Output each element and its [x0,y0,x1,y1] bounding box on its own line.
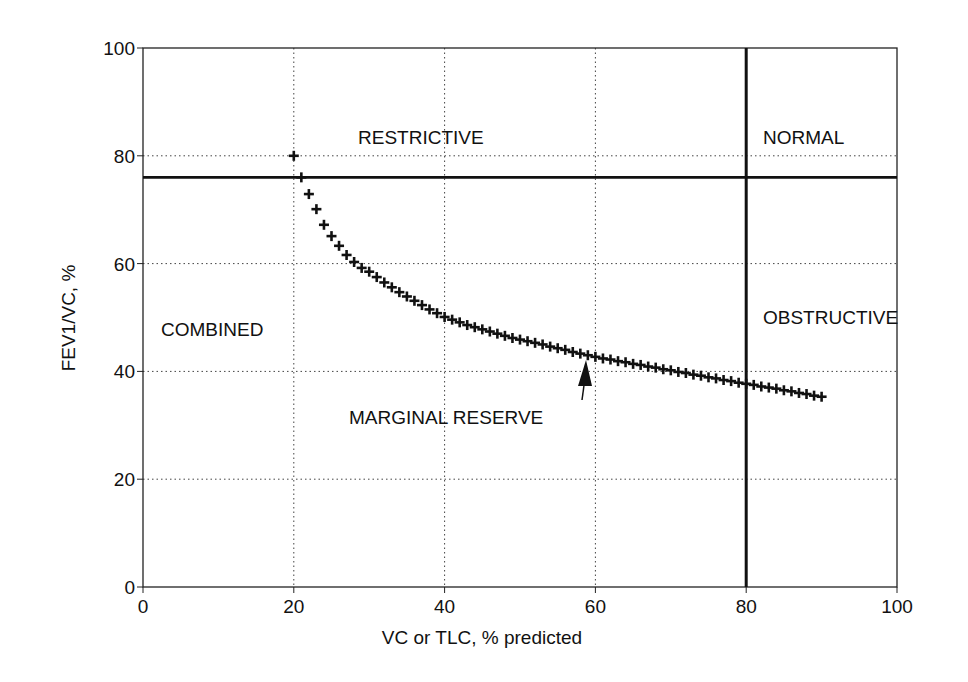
chart-canvas: 020406080100020406080100 RESTRICTIVE NOR… [0,0,968,682]
x-tick-label: 80 [736,596,757,617]
x-tick-label: 100 [881,596,913,617]
plus-marker-icon [583,350,593,360]
plus-marker-icon [545,342,555,352]
label-combined: COMBINED [161,319,263,340]
plus-marker-icon [802,389,812,399]
plus-marker-icon [327,231,337,241]
plus-marker-icon [590,352,600,362]
plus-marker-icon [296,172,306,182]
plus-marker-icon [605,355,615,365]
plus-marker-icon [379,277,389,287]
plus-marker-icon [538,339,548,349]
label-obstructive: OBSTRUCTIVE [763,307,898,328]
plus-marker-icon [636,360,646,370]
plus-marker-icon [372,272,382,282]
y-tick-label: 100 [103,38,135,59]
plus-marker-icon [560,345,570,355]
plus-marker-icon [523,336,533,346]
plus-marker-icon [492,329,502,339]
plus-marker-icon [319,220,329,230]
plus-marker-icon [749,380,759,390]
plus-marker-icon [771,384,781,394]
plus-marker-icon [786,386,796,396]
plus-marker-icon [289,151,299,161]
plus-marker-icon [530,338,540,348]
plus-marker-icon [334,241,344,251]
x-tick-label: 60 [585,596,606,617]
plus-marker-icon [342,250,352,260]
plus-marker-icon [666,365,676,375]
x-tick-label: 20 [283,596,304,617]
label-restrictive: RESTRICTIVE [358,127,484,148]
plus-marker-icon [726,376,736,386]
plus-marker-icon [477,324,487,334]
y-tick-label: 20 [114,469,135,490]
plus-marker-icon [696,371,706,381]
plus-marker-icon [349,257,359,267]
y-tick-label: 60 [114,254,135,275]
plus-marker-icon [817,392,827,402]
plus-marker-icon [500,331,510,341]
plus-marker-icon [681,368,691,378]
x-tick-label: 0 [138,596,149,617]
plus-marker-icon [621,357,631,367]
y-axis-title: FEV1/VC, % [58,265,79,372]
plus-marker-icon [568,347,578,357]
plus-marker-icon [553,343,563,353]
plus-marker-icon [311,204,321,214]
marginal-reserve-arrow-icon [578,360,592,400]
plus-marker-icon [304,189,314,199]
y-tick-label: 0 [124,577,135,598]
label-marginal-reserve: MARGINAL RESERVE [349,407,543,428]
plus-marker-icon [485,327,495,337]
y-tick-label: 80 [114,146,135,167]
x-axis-title: VC or TLC, % predicted [382,627,582,648]
y-tick-label: 40 [114,361,135,382]
x-tick-label: 40 [434,596,455,617]
label-normal: NORMAL [763,127,844,148]
plus-marker-icon [711,373,721,383]
plus-marker-icon [470,322,480,332]
plus-marker-icon [507,333,517,343]
plus-marker-icon [387,282,397,292]
plus-marker-icon [575,349,585,359]
plus-marker-icon [515,335,525,345]
